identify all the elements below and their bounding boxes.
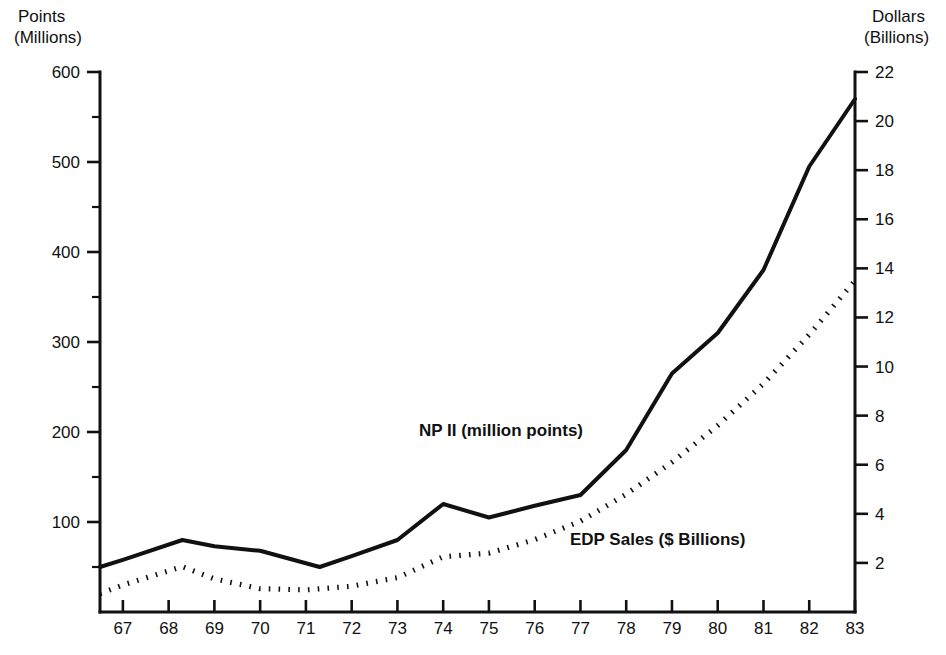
x-axis-tick-label: 76 <box>525 619 544 638</box>
x-axis-tick-label: 77 <box>571 619 590 638</box>
left-axis-tick-label: 100 <box>52 513 80 532</box>
right-axis-tick-label: 10 <box>875 358 894 377</box>
x-axis-tick-label: 80 <box>708 619 727 638</box>
x-axis-tick-label: 71 <box>296 619 315 638</box>
left-axis-title-line1: Points <box>18 7 65 26</box>
x-axis-tick-label: 78 <box>617 619 636 638</box>
left-axis-tick-label: 300 <box>52 333 80 352</box>
x-axis-tick-label: 67 <box>113 619 132 638</box>
x-axis-tick-label: 74 <box>434 619 453 638</box>
x-axis-tick-label: 81 <box>754 619 773 638</box>
left-axis-title-line2: (Millions) <box>14 28 82 47</box>
x-axis-tick-label: 75 <box>479 619 498 638</box>
right-axis-tick-label: 22 <box>875 63 894 82</box>
right-axis-tick-label: 20 <box>875 112 894 131</box>
x-axis-tick-label: 69 <box>205 619 224 638</box>
line-chart: Points (Millions) Dollars (Billions) 100… <box>0 0 946 655</box>
right-axis-tick-label: 14 <box>875 259 894 278</box>
right-axis-tick-label: 4 <box>875 505 884 524</box>
x-axis-tick-label: 79 <box>663 619 682 638</box>
right-axis-tick-label: 16 <box>875 210 894 229</box>
left-axis-tick-label: 400 <box>52 243 80 262</box>
x-axis-tick-label: 72 <box>342 619 361 638</box>
chart-background <box>0 0 946 655</box>
left-axis-tick-label: 500 <box>52 153 80 172</box>
series-annotation-label: EDP Sales ($ Billions) <box>570 530 745 549</box>
x-axis-tick-label: 73 <box>388 619 407 638</box>
right-axis-tick-label: 8 <box>875 407 884 426</box>
right-axis-tick-label: 6 <box>875 456 884 475</box>
right-axis-tick-label: 12 <box>875 308 894 327</box>
right-axis-title-line2: (Billions) <box>864 28 929 47</box>
series-annotation-label: NP II (million points) <box>419 421 583 440</box>
right-axis-title-line1: Dollars <box>872 7 925 26</box>
left-axis-tick-label: 200 <box>52 423 80 442</box>
x-axis-tick-label: 68 <box>159 619 178 638</box>
right-axis-tick-label: 18 <box>875 161 894 180</box>
x-axis-tick-label: 70 <box>251 619 270 638</box>
x-axis-tick-label: 82 <box>800 619 819 638</box>
chart-figure: Points (Millions) Dollars (Billions) 100… <box>0 0 946 655</box>
left-axis-tick-label: 600 <box>52 63 80 82</box>
x-axis-tick-label: 83 <box>846 619 865 638</box>
right-axis-tick-label: 2 <box>875 554 884 573</box>
